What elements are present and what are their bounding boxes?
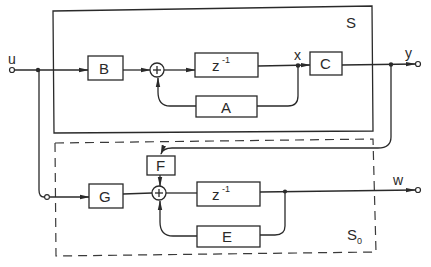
block-g: G (89, 184, 123, 208)
block-c: C (310, 52, 342, 75)
block-delay-2: z -1 (197, 182, 260, 206)
system-s0-label: S 0 (347, 226, 362, 246)
input-terminal-u (10, 68, 15, 73)
svg-text:A: A (221, 99, 231, 116)
block-delay-1: z -1 (195, 53, 258, 77)
wire-g-to-sum2 (123, 193, 152, 194)
wire-u-to-s0 (39, 70, 45, 197)
output-terminal-w (416, 188, 421, 193)
s0-input-terminal (45, 195, 50, 200)
block-a: A (196, 96, 257, 117)
output-label-y: y (405, 45, 412, 61)
block-diagram: S S 0 u B z -1 x A C (0, 0, 431, 267)
summer-1 (150, 63, 164, 77)
state-label-x: x (294, 47, 301, 63)
output-terminal-y (416, 62, 421, 67)
svg-text:S: S (347, 226, 357, 243)
svg-text:E: E (222, 228, 232, 245)
svg-text:-1: -1 (222, 55, 230, 65)
block-b: B (88, 56, 123, 80)
block-f: F (147, 156, 175, 175)
svg-text:-1: -1 (222, 184, 230, 194)
wire-a-to-sum1 (158, 78, 196, 106)
input-label-u: u (8, 51, 16, 67)
svg-text:z: z (212, 186, 220, 203)
svg-text:z: z (212, 57, 220, 74)
svg-text:F: F (156, 157, 165, 174)
system-s-label: S (346, 14, 356, 31)
wire-x-to-a (257, 66, 298, 106)
wire-e-to-sum2 (160, 201, 197, 236)
svg-text:C: C (320, 55, 331, 72)
wire-c-to-y (342, 64, 415, 65)
wire-delay1-to-c (258, 65, 310, 66)
summer-2 (152, 186, 166, 200)
wire-w-to-e (260, 192, 285, 235)
svg-text:G: G (99, 188, 111, 205)
svg-text:B: B (99, 60, 109, 77)
output-label-w: w (392, 172, 404, 188)
block-e: E (197, 226, 260, 247)
svg-text:0: 0 (357, 236, 362, 246)
